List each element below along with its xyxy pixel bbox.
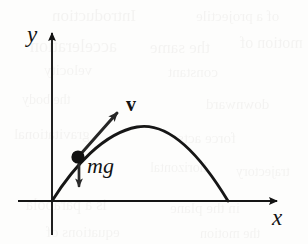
velocity-vector-arrow [79,113,117,156]
diagram-canvas [0,0,308,244]
x-axis-label: x [272,206,282,229]
projectile-point-marker [71,150,84,163]
projectile-motion-diagram: Introductionof a projectileaccelerationt… [0,0,308,244]
axis-group [18,33,277,235]
velocity-vector-label: v [126,94,136,114]
weight-vector-label: mg [87,155,114,177]
y-axis-label: y [27,23,37,46]
